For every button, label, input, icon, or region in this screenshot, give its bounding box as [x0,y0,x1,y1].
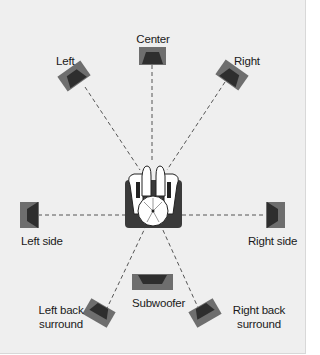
left-side-speaker-icon [20,202,39,228]
label-subwoofer: Subwoofer [132,296,185,310]
subwoofer-icon [132,274,173,290]
label-left-back-line2: surround [38,317,84,331]
label-right-back-line2: surround [230,317,288,331]
right-back-surround-speaker-icon [188,298,221,328]
center-speaker-icon [139,47,166,65]
left-back-surround-speaker-icon [82,298,115,328]
listener-seat-icon [125,166,182,228]
right-side-speaker-icon [266,202,285,228]
label-left-back-surround: Left back surround [38,303,84,331]
label-right-back-line1: Right back [230,303,288,317]
label-left-back-line1: Left back [38,303,84,317]
label-center: Center [136,32,170,46]
label-right: Right [234,54,260,68]
label-left: Left [56,54,74,68]
label-left-side: Left side [21,234,63,248]
label-right-side: Right side [248,234,297,248]
label-right-back-surround: Right back surround [230,303,288,331]
